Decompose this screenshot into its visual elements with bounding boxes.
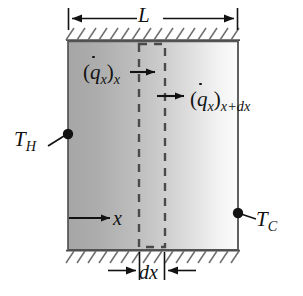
q-dot-out: q [197, 89, 208, 110]
label-width-L: L [138, 5, 150, 26]
label-heat-flux-in: (qx)x [83, 62, 120, 86]
label-heat-flux-in-symbol: q [90, 60, 101, 84]
label-x-axis: x [113, 208, 122, 228]
label-cold-temperature-symbol: T [256, 207, 268, 231]
width-dimension-L [69, 8, 238, 30]
paren-close-out: ) [214, 87, 221, 111]
label-cold-temperature: TC [256, 209, 277, 233]
label-dx: dx [139, 262, 158, 282]
paren-open-out: ( [190, 87, 197, 111]
q-dot-in: q [90, 62, 101, 83]
diagram-canvas [0, 0, 303, 296]
paren-close-in: ) [107, 60, 114, 84]
heat-conduction-plane-wall-diagram: L TH TC x dx (qx)x (qx)x+dx [0, 0, 303, 296]
label-hot-temperature-subscript: H [26, 138, 36, 154]
label-heat-flux-out: (qx)x+dx [190, 89, 250, 113]
label-heat-flux-out-location: x+dx [221, 98, 250, 114]
label-hot-temperature-symbol: T [14, 127, 26, 151]
label-heat-flux-in-location: x [114, 71, 120, 87]
label-cold-temperature-subscript: C [268, 218, 278, 234]
label-heat-flux-out-symbol: q [197, 87, 208, 111]
cold-surface-marker [233, 208, 256, 219]
top-hatched-boundary [66, 28, 240, 40]
label-hot-temperature: TH [14, 129, 36, 153]
paren-open-in: ( [83, 60, 90, 84]
